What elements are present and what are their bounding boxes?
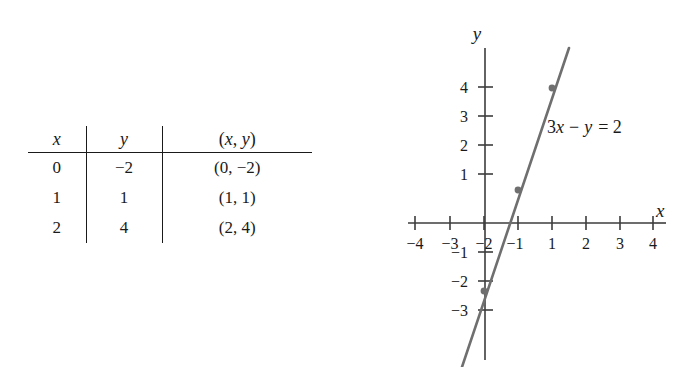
eq-coefficient: 3 [547,117,556,137]
y-tick-label: −2 [451,273,468,290]
x-tick-label: −2 [475,235,492,252]
table: x y (x, y) 0 −2 (0, −2) 1 1 (1, [28,126,312,243]
cell-y: −2 [86,153,162,183]
x-tick-label: 3 [616,235,624,252]
plotted-line [462,48,569,367]
cell-xy-pair: (2, 4) [162,213,312,243]
y-tick-label: 4 [460,79,468,96]
pair-close-paren: ) [250,129,256,149]
pair-comma: , [233,129,242,149]
x-tick-label: 4 [649,235,657,252]
cell-x: 0 [28,153,86,183]
table-row: 0 −2 (0, −2) [28,153,312,183]
table-row: 2 4 (2, 4) [28,213,312,243]
x-tick-label: 2 [582,235,590,252]
y-tick-label: −1 [451,244,468,261]
cell-y: 1 [86,183,162,213]
eq-minus: − [569,117,579,137]
data-point [515,187,522,194]
column-header-y: y [86,126,162,152]
column-header-x: x [28,126,86,152]
y-tick-label: 3 [460,108,468,125]
coordinate-value-table: x y (x, y) 0 −2 (0, −2) 1 1 (1, [28,126,328,246]
data-point [549,85,556,92]
cell-xy-pair: (0, −2) [162,153,312,183]
pair-header-x: x [225,129,233,149]
cell-x: 2 [28,213,86,243]
y-tick-label: 2 [460,137,468,154]
x-tick-label: −4 [406,235,423,252]
x-tick-label: 1 [548,235,556,252]
eq-var-x: x [555,117,564,137]
worksheet-figure: x y (x, y) 0 −2 (0, −2) 1 1 (1, [0,0,678,367]
cell-x: 1 [28,183,86,213]
y-tick-label: −3 [451,302,468,319]
data-point [481,288,488,295]
y-axis-label: y [471,23,482,44]
column-header-xy-pair: (x, y) [162,126,312,152]
table-header-row: x y (x, y) [28,126,312,152]
eq-equals-value: = 2 [598,117,622,137]
eq-var-y: y [582,117,592,137]
table-row: 1 1 (1, 1) [28,183,312,213]
pair-header-y: y [242,129,250,149]
cell-xy-pair: (1, 1) [162,183,312,213]
coordinate-graph: −4 −3 −2 −1 1 2 3 4 4 3 2 [398,0,678,367]
cell-y: 4 [86,213,162,243]
graph-svg: −4 −3 −2 −1 1 2 3 4 4 3 2 [398,0,678,367]
x-axis-label: x [655,200,665,221]
x-tick-label: −1 [506,235,523,252]
equation-label: 3x−y= 2 [547,117,622,137]
y-tick-label: 1 [460,166,468,183]
